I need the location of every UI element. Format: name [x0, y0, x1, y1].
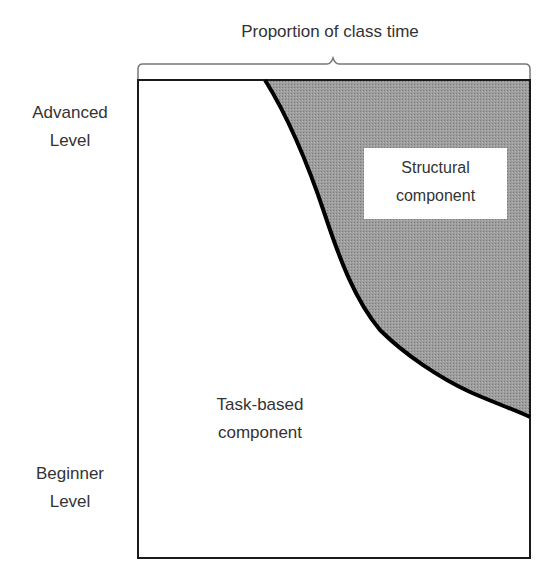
advanced-level-label: Advanced Level: [20, 99, 120, 155]
task-label-line2: component: [190, 419, 330, 447]
task-based-component-label: Task-based component: [190, 391, 330, 447]
diagram-title: Proportion of class time: [170, 18, 490, 46]
structural-label-line1: Structural: [364, 154, 507, 182]
structural-label-line2: component: [364, 182, 507, 210]
structural-component-label: Structural component: [364, 154, 507, 210]
advanced-label-line1: Advanced: [20, 99, 120, 127]
advanced-label-line2: Level: [20, 127, 120, 155]
task-label-line1: Task-based: [190, 391, 330, 419]
proportion-brace: [138, 58, 530, 80]
beginner-label-line2: Level: [20, 488, 120, 516]
beginner-label-line1: Beginner: [20, 460, 120, 488]
structural-region: [265, 80, 530, 417]
beginner-level-label: Beginner Level: [20, 460, 120, 516]
